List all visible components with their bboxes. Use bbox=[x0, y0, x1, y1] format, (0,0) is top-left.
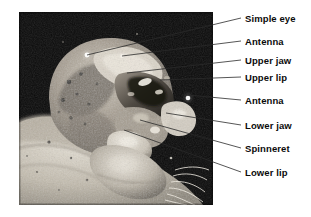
label-simple-eye: Simple eye bbox=[245, 13, 296, 24]
label-spinneret: Spinneret bbox=[245, 143, 290, 154]
caterpillar-head-photo bbox=[19, 12, 213, 205]
label-lower-jaw: Lower jaw bbox=[245, 120, 292, 131]
label-antenna-upper: Antenna bbox=[245, 36, 284, 47]
label-upper-jaw: Upper jaw bbox=[245, 55, 291, 66]
label-upper-lip: Upper lip bbox=[245, 72, 287, 83]
label-antenna-lower: Antenna bbox=[245, 95, 284, 106]
labeled-diagram-figure: Simple eyeAntennaUpper jawUpper lipAnten… bbox=[0, 0, 311, 217]
photo-canvas bbox=[19, 12, 213, 205]
label-lower-lip: Lower lip bbox=[245, 167, 288, 178]
